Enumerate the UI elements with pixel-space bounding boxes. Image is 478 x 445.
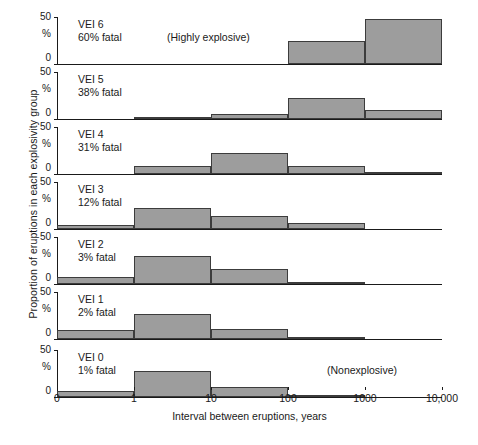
bar [211, 153, 288, 174]
vei-name: VEI 1 [78, 293, 104, 305]
bar [288, 282, 365, 284]
y-tick-mark [54, 339, 57, 340]
bar [134, 208, 211, 229]
y-tick-label: 0 [45, 163, 51, 173]
x-tick-label: 0 [54, 392, 60, 404]
bar [288, 223, 365, 229]
bar [134, 117, 211, 119]
fatal-percentage: 2% fatal [78, 306, 116, 319]
panel-label: VEI 660% fatal [78, 18, 122, 43]
y-tick-label: % [42, 84, 51, 94]
y-tick-label: 50 [40, 12, 51, 22]
y-tick-label: % [42, 362, 51, 372]
y-tick-mark [54, 229, 57, 230]
x-tick-mark [365, 387, 366, 390]
y-tick-mark [54, 64, 57, 65]
y-tick-labels: 50%0 [25, 66, 53, 124]
volcano-eruption-interval-chart: Proportion of eruptions in each explosiv… [0, 0, 478, 445]
y-tick-mark [54, 182, 57, 183]
y-tick-label: 0 [45, 386, 51, 396]
panel-label: VEI 431% fatal [78, 128, 122, 153]
y-axis-line [57, 127, 58, 175]
vei-name: VEI 5 [78, 73, 104, 85]
bar [211, 114, 288, 119]
y-tick-label: 50 [40, 67, 51, 77]
y-tick-label: 50 [40, 287, 51, 297]
panel-vei-5: 50%0VEI 538% fatal [57, 72, 442, 120]
y-tick-labels: 50%0 [25, 286, 53, 344]
bar [288, 41, 365, 65]
fatal-percentage: 1% fatal [78, 364, 116, 377]
y-tick-labels: 50%0 [25, 121, 53, 179]
bar [211, 216, 288, 229]
panel-vei-3: 50%0VEI 312% fatal [57, 182, 442, 230]
vei-name: VEI 2 [78, 238, 104, 250]
y-tick-mark [54, 127, 57, 128]
y-tick-labels: 50%0 [25, 11, 53, 69]
y-tick-mark [54, 350, 57, 351]
bar [211, 329, 288, 339]
y-tick-labels: 50%0 [25, 176, 53, 234]
bar [134, 256, 211, 284]
x-tick-label: 10 [205, 392, 217, 404]
y-tick-label: % [42, 139, 51, 149]
panel-label: VEI 538% fatal [78, 73, 122, 98]
panel-label: VEI 01% fatal [78, 351, 116, 376]
vei-name: VEI 0 [78, 351, 104, 363]
y-tick-mark [54, 292, 57, 293]
bar [57, 330, 134, 339]
x-axis-baseline [57, 339, 442, 340]
x-tick-label: 10,000 [426, 392, 458, 404]
explosivity-note: (Nonexplosive) [327, 364, 397, 376]
bar [365, 110, 442, 119]
panel-vei-6: 50%0VEI 660% fatal(Highly explosive) [57, 17, 442, 65]
x-axis-baseline [57, 229, 442, 230]
x-tick-label: 100 [279, 392, 297, 404]
x-tick-label: 1 [131, 392, 137, 404]
panel-vei-4: 50%0VEI 431% fatal [57, 127, 442, 175]
y-tick-label: 0 [45, 273, 51, 283]
y-tick-labels: 50%0 [25, 231, 53, 289]
panel-vei-2: 50%0VEI 23% fatal [57, 237, 442, 285]
fatal-percentage: 31% fatal [78, 141, 122, 154]
x-tick-mark [57, 387, 58, 390]
bar [365, 19, 442, 64]
y-tick-label: 50 [40, 345, 51, 355]
y-tick-label: % [42, 249, 51, 259]
y-tick-label: 50 [40, 122, 51, 132]
y-tick-label: 50 [40, 177, 51, 187]
bar [365, 172, 442, 174]
y-tick-mark [54, 72, 57, 73]
x-axis-baseline [57, 64, 442, 65]
bar [57, 225, 134, 229]
x-tick-mark [288, 387, 289, 390]
y-tick-label: 50 [40, 232, 51, 242]
panel-label: VEI 12% fatal [78, 293, 116, 318]
fatal-percentage: 60% fatal [78, 31, 122, 44]
y-tick-label: 0 [45, 53, 51, 63]
x-axis-title: Interval between eruptions, years [57, 410, 442, 422]
vei-name: VEI 3 [78, 183, 104, 195]
y-tick-mark [54, 119, 57, 120]
y-axis-line [57, 17, 58, 65]
x-tick-mark [442, 387, 443, 390]
y-tick-label: % [42, 29, 51, 39]
y-tick-mark [54, 284, 57, 285]
y-axis-line [57, 182, 58, 230]
x-axis-baseline [57, 119, 442, 120]
x-axis-baseline [57, 174, 442, 175]
vei-name: VEI 4 [78, 128, 104, 140]
y-tick-mark [54, 174, 57, 175]
x-tick-label: 1000 [353, 392, 376, 404]
x-axis-baseline [57, 284, 442, 285]
y-axis-line [57, 72, 58, 120]
panel-label: VEI 312% fatal [78, 183, 122, 208]
x-tick-mark [134, 387, 135, 390]
bar [288, 98, 365, 119]
y-tick-mark [54, 237, 57, 238]
x-axis: 0110100100010,000 Interval between erupt… [57, 390, 442, 430]
y-tick-label: 0 [45, 218, 51, 228]
bar [288, 337, 365, 339]
y-tick-label: 0 [45, 108, 51, 118]
bar [57, 277, 134, 284]
